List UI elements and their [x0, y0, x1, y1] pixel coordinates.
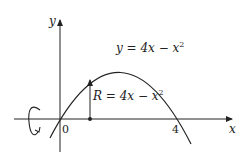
y-axis-label: y — [48, 14, 56, 28]
origin-label: 0 — [62, 123, 69, 136]
rotation-icon — [29, 107, 40, 135]
x-axis-label: x — [229, 122, 236, 136]
radius-base-dot — [88, 117, 92, 121]
radius-label: R = 4x − x2 — [92, 88, 164, 103]
radius-label-exponent: 2 — [159, 88, 164, 97]
curve-equation-label: y = 4x − x2 — [115, 40, 184, 55]
curve-equation-exponent: 2 — [179, 40, 184, 49]
x-tick-4-label: 4 — [172, 123, 179, 136]
parabola-curve — [50, 72, 191, 144]
solid-of-revolution-diagram: y x 0 4 y = 4x − x2 R = 4x − x2 — [0, 0, 242, 160]
radius-label-lhs: R = 4x − x — [92, 89, 159, 103]
curve-equation-lhs: y = 4x − x — [115, 41, 180, 55]
